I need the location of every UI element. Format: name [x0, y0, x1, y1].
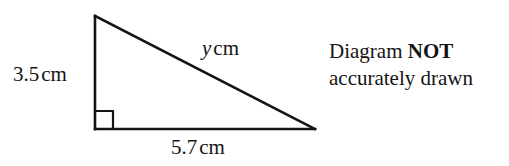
note-line-2: accurately drawn: [329, 65, 509, 92]
base-side-value: 5.7: [171, 135, 197, 159]
vertical-side-unit: cm: [41, 62, 67, 86]
right-angle-marker-icon: [95, 111, 113, 129]
vertical-side-value: 3.5: [13, 62, 39, 86]
base-side-label: 5.7cm: [171, 137, 225, 158]
note-line-1-plain: Diagram: [329, 39, 408, 63]
note-line-1-strong: NOT: [408, 39, 454, 63]
hypotenuse-unit: cm: [213, 36, 239, 60]
hypotenuse-variable: y: [202, 36, 211, 60]
diagram-not-accurate-note: Diagram NOT accurately drawn: [329, 38, 509, 93]
note-line-1: Diagram NOT: [329, 38, 509, 65]
base-side-unit: cm: [199, 135, 225, 159]
vertical-side-label: 3.5cm: [13, 64, 67, 85]
triangle-hypotenuse-side: [95, 16, 315, 129]
hypotenuse-label: ycm: [202, 38, 239, 59]
diagram-figure: 3.5cm ycm 5.7cm Diagram NOT accurately d…: [0, 0, 509, 166]
